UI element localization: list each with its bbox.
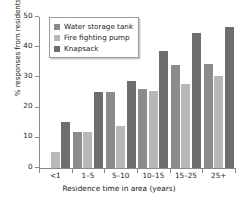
bar-group — [170, 17, 203, 168]
bar — [73, 132, 82, 168]
x-axis-tick-label: 1–5 — [72, 172, 105, 179]
legend-item: Knapsack — [54, 43, 133, 54]
bar — [159, 51, 168, 168]
y-axis-tick-label: 10 — [23, 132, 32, 139]
x-axis-tick-label: 15–25 — [170, 172, 203, 179]
legend-item-label: Water storage tank — [64, 23, 133, 30]
bar — [181, 84, 190, 168]
bar — [214, 76, 223, 168]
bar-group — [202, 17, 235, 168]
bar — [94, 92, 103, 168]
bar — [61, 122, 70, 168]
legend-item-label: Fire fighting pump — [64, 34, 130, 41]
y-axis-tick-label: 30 — [23, 72, 32, 79]
y-axis-tick-label: 40 — [23, 42, 32, 49]
x-axis-tick-label: 5–10 — [104, 172, 137, 179]
bar — [192, 33, 201, 168]
bar — [83, 132, 92, 168]
legend-item: Fire fighting pump — [54, 32, 133, 43]
bar — [225, 27, 234, 168]
bar — [127, 81, 136, 168]
y-axis-title: % responses from residents — [14, 0, 21, 118]
x-axis-tick-label: <1 — [39, 172, 72, 179]
bar-group — [137, 17, 170, 168]
bar — [149, 91, 158, 168]
legend-swatch-icon — [54, 46, 60, 52]
legend-swatch-icon — [54, 24, 60, 30]
chart-legend: Water storage tankFire fighting pumpKnap… — [49, 17, 139, 58]
bar — [51, 152, 60, 168]
legend-item-label: Knapsack — [64, 45, 99, 52]
bar — [204, 64, 213, 168]
bar — [138, 89, 147, 168]
bar-chart: % responses from residents 01020304050 <… — [0, 0, 238, 200]
y-axis-tick-label: 0 — [28, 163, 33, 170]
x-axis-tick-label: 25+ — [202, 172, 235, 179]
legend-swatch-icon — [54, 35, 60, 41]
x-axis-title: Residence time in area (years) — [0, 185, 238, 192]
x-axis-tick-label: 10–15 — [137, 172, 170, 179]
bar — [171, 65, 180, 168]
y-axis-tick-label: 50 — [23, 12, 32, 19]
x-axis-tick — [235, 169, 236, 173]
bar — [106, 92, 115, 168]
y-axis-tick-label: 20 — [23, 102, 32, 109]
legend-item: Water storage tank — [54, 21, 133, 32]
bar — [116, 126, 125, 168]
